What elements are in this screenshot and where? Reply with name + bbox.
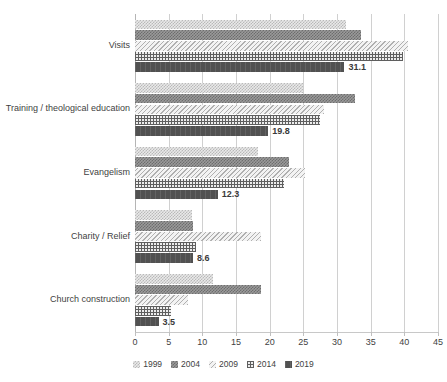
bar-row [135,221,438,231]
legend-label: 2009 [219,360,238,369]
x-tick-35 [371,332,372,336]
plot-area: 31.119.812.38.63.5 [135,14,438,332]
x-tick-label-35: 35 [366,338,376,347]
x-axis-line [135,332,438,333]
legend-label: 2004 [181,360,200,369]
bar-2019-training-theological-education[interactable] [135,126,268,136]
legend-item-2014[interactable]: 2014 [247,360,276,369]
data-label: 8.6 [197,253,210,262]
bar-2004-evangelism[interactable] [135,157,289,167]
bar-row [135,115,438,125]
legend-swatch-2014 [247,361,254,368]
x-tick-40 [404,332,405,336]
bar-row [135,20,438,30]
bar-2014-church-construction[interactable] [135,306,171,316]
legend-item-2019[interactable]: 2019 [285,360,314,369]
legend-swatch-1999 [133,361,140,368]
data-label: 19.8 [272,126,290,135]
bar-2014-evangelism[interactable] [135,179,284,189]
bar-2019-charity-relief[interactable] [135,253,193,263]
bar-row [135,242,438,252]
bar-row: 31.1 [135,62,438,72]
bar-2004-visits[interactable] [135,30,361,40]
legend-item-2009[interactable]: 2009 [209,360,238,369]
x-tick-label-25: 25 [298,338,308,347]
bar-2004-church-construction[interactable] [135,285,261,295]
bar-2014-visits[interactable] [135,52,403,62]
category-label: Training / theological education [0,104,130,113]
bar-row [135,94,438,104]
x-tick-label-30: 30 [332,338,342,347]
bar-group: 31.1 [135,20,438,72]
bar-row: 12.3 [135,190,438,200]
bar-2009-visits[interactable] [135,41,408,51]
bar-1999-training-theological-education[interactable] [135,83,303,93]
data-label: 3.5 [163,317,176,326]
bar-row [135,147,438,157]
x-tick-10 [202,332,203,336]
bar-1999-evangelism[interactable] [135,147,258,157]
bar-row [135,41,438,51]
legend-swatch-2004 [171,361,178,368]
x-tick-label-5: 5 [166,338,171,347]
legend-label: 2019 [295,360,314,369]
bar-1999-charity-relief[interactable] [135,210,192,220]
bar-row [135,232,438,242]
bar-row [135,295,438,305]
bar-row [135,306,438,316]
bar-1999-visits[interactable] [135,20,346,30]
bar-row [135,105,438,115]
data-label: 12.3 [222,190,240,199]
bar-2009-evangelism[interactable] [135,168,305,178]
bar-chart: 31.119.812.38.63.5 VisitsTraining / theo… [0,0,447,382]
bar-group: 8.6 [135,210,438,262]
bar-group: 3.5 [135,274,438,326]
bar-row: 8.6 [135,253,438,263]
x-tick-45 [438,332,439,336]
x-tick-label-10: 10 [197,338,207,347]
bar-2004-training-theological-education[interactable] [135,94,355,104]
bar-row [135,157,438,167]
bar-group: 19.8 [135,83,438,135]
legend-item-1999[interactable]: 1999 [133,360,162,369]
gridline-45 [438,14,439,332]
x-tick-5 [169,332,170,336]
x-tick-20 [270,332,271,336]
x-tick-0 [135,332,136,336]
bar-row [135,168,438,178]
bar-row [135,285,438,295]
x-tick-label-0: 0 [132,338,137,347]
bar-2014-charity-relief[interactable] [135,242,196,252]
x-tick-label-20: 20 [265,338,275,347]
bar-2009-church-construction[interactable] [135,295,188,305]
legend-item-2004[interactable]: 2004 [171,360,200,369]
bar-2019-evangelism[interactable] [135,190,218,200]
legend-swatch-2009 [209,361,216,368]
bar-2004-charity-relief[interactable] [135,221,193,231]
bar-row [135,52,438,62]
bar-2009-charity-relief[interactable] [135,232,261,242]
category-label: Evangelism [0,168,130,177]
x-tick-15 [236,332,237,336]
x-tick-30 [337,332,338,336]
bar-2014-training-theological-education[interactable] [135,115,320,125]
legend: 19992004200920142019 [0,360,447,369]
data-label: 31.1 [348,63,366,72]
bar-1999-church-construction[interactable] [135,274,213,284]
bar-row: 3.5 [135,317,438,327]
x-tick-label-15: 15 [231,338,241,347]
legend-label: 2014 [257,360,276,369]
bar-group: 12.3 [135,147,438,199]
category-label: Church construction [0,295,130,304]
bar-row [135,210,438,220]
bar-2019-visits[interactable] [135,62,344,72]
bar-row [135,83,438,93]
bar-row [135,274,438,284]
category-label: Visits [0,41,130,50]
bar-2009-training-theological-education[interactable] [135,105,324,115]
legend-swatch-2019 [285,361,292,368]
legend-label: 1999 [143,360,162,369]
x-tick-25 [303,332,304,336]
x-tick-label-40: 40 [399,338,409,347]
bar-2019-church-construction[interactable] [135,317,159,327]
